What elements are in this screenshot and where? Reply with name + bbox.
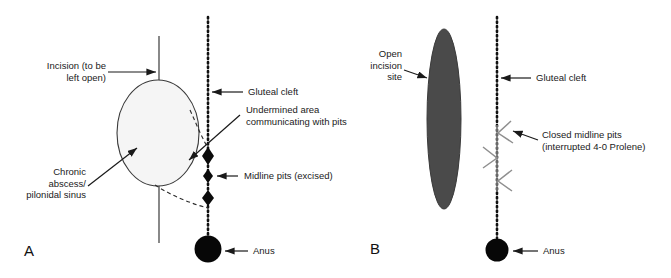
- label-closed-midline-pits: Closed midline pits (interrupted 4-0 Pro…: [542, 129, 670, 152]
- suture-mark-3: [498, 170, 512, 191]
- leader-open-incision-site: [404, 70, 427, 78]
- suture-mark-2: [483, 147, 497, 168]
- label-anus-b: Anus: [543, 245, 603, 257]
- midline-pit-3: [202, 190, 214, 206]
- suture-mark-1: [498, 121, 513, 143]
- anus-circle-a: [195, 236, 222, 263]
- panel-letter-a: A: [24, 242, 34, 259]
- label-anus-a: Anus: [253, 245, 313, 257]
- chronic-abscess-ellipse: [117, 80, 199, 186]
- midline-pit-1: [202, 147, 214, 165]
- open-incision-site-ellipse: [427, 29, 461, 209]
- label-incision: Incision (to be left open): [10, 60, 106, 83]
- undermined-track-lower: [155, 185, 208, 208]
- label-midline-pits: Midline pits (excised): [244, 170, 364, 182]
- label-open-incision-site: Open incision site: [352, 48, 402, 83]
- leader-closed-midline-pits: [513, 131, 538, 140]
- pilonidal-sinus-figure: Incision (to be left open) Gluteal cleft…: [0, 0, 671, 278]
- panel-letter-b: B: [370, 240, 380, 257]
- label-undermined-area: Undermined area communicating with pits: [246, 104, 370, 127]
- midline-pit-2: [203, 169, 213, 183]
- label-chronic-abscess: Chronic abscess/ pilonidal sinus: [4, 166, 86, 201]
- label-gluteal-cleft-a: Gluteal cleft: [248, 86, 358, 98]
- label-gluteal-cleft-b: Gluteal cleft: [536, 72, 646, 84]
- anus-circle-b: [486, 239, 509, 262]
